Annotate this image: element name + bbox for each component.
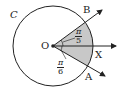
point-b-label: B bbox=[83, 5, 90, 15]
point-x-label: X bbox=[95, 50, 102, 60]
angle-upper-den: 5 bbox=[75, 37, 82, 45]
diagram: C O B X A π 5 π 6 bbox=[0, 0, 122, 92]
angle-lower-den: 6 bbox=[57, 68, 64, 76]
circle-label: C bbox=[10, 10, 18, 20]
center-label: O bbox=[41, 41, 49, 51]
angle-lower-label: π 6 bbox=[57, 59, 64, 76]
diagram-graphic bbox=[0, 0, 122, 92]
center-point bbox=[51, 44, 55, 48]
point-a-label: A bbox=[85, 72, 92, 82]
angle-upper-label: π 5 bbox=[75, 28, 82, 45]
